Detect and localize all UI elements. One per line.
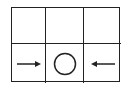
arrow-right-icon [16,59,42,69]
arrow-left-icon [90,59,116,69]
cell-r2-c3 [84,44,121,83]
cell-r1-c2 [46,8,84,44]
cell-r2-c2 [46,44,84,83]
circle-icon [52,51,78,77]
cell-r1-c1 [12,8,46,44]
grid-diagram [11,7,120,82]
cell-r2-c1 [12,44,46,83]
cell-r1-c3 [84,8,121,44]
